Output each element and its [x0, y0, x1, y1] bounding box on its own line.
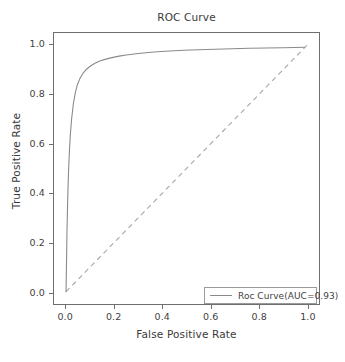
x-tick-mark	[308, 305, 309, 309]
plot-area	[53, 32, 320, 305]
page-title: ROC Curve	[53, 11, 320, 23]
x-tick-label: 1.0	[288, 311, 328, 322]
chance-diagonal-line	[66, 45, 307, 291]
y-tick-mark	[49, 193, 53, 194]
x-tick-mark	[65, 305, 66, 309]
y-axis-label: True Positive Rate	[10, 81, 22, 241]
legend-box: Roc Curve(AUC=0.93)	[204, 287, 317, 304]
plot-svg	[54, 33, 319, 304]
x-tick-label: 0.6	[191, 311, 231, 322]
y-tick-mark	[49, 94, 53, 95]
y-tick-mark	[49, 293, 53, 294]
x-tick-mark	[162, 305, 163, 309]
x-tick-label: 0.2	[94, 311, 134, 322]
x-axis-label: False Positive Rate	[53, 328, 320, 340]
legend-line-swatch	[210, 295, 232, 296]
x-tick-label: 0.4	[142, 311, 182, 322]
x-tick-mark	[211, 305, 212, 309]
x-tick-label: 0.8	[239, 311, 279, 322]
x-tick-mark	[259, 305, 260, 309]
y-tick-mark	[49, 243, 53, 244]
roc-curve-figure: ROC Curve 0.00.20.40.60.81.0 0.00.20.40.…	[0, 0, 345, 362]
x-tick-label: 0.0	[45, 311, 85, 322]
y-tick-label: 1.0	[11, 38, 45, 49]
y-tick-mark	[49, 44, 53, 45]
y-tick-label: 0.0	[11, 287, 45, 298]
legend-item-label: Roc Curve(AUC=0.93)	[238, 291, 338, 301]
y-tick-mark	[49, 144, 53, 145]
x-tick-mark	[114, 305, 115, 309]
